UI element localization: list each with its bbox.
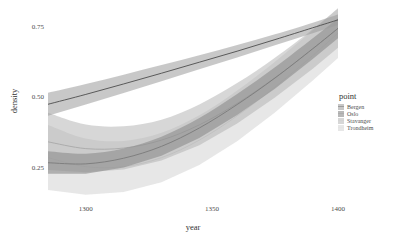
legend-swatch-icon xyxy=(338,104,344,110)
legend-item-oslo[interactable]: Oslo xyxy=(338,111,394,118)
x-tick-label: 1400 xyxy=(318,206,358,213)
x-axis-title: year xyxy=(48,222,338,232)
legend-item-label: Oslo xyxy=(347,111,358,117)
legend-swatch-icon xyxy=(338,111,344,117)
legend-item-label: Stavanger xyxy=(347,118,371,124)
x-tick-label: 1350 xyxy=(192,206,232,213)
legend-item-label: Bergen xyxy=(347,104,364,110)
y-axis-ticks: 0.75 0.50 0.25 xyxy=(0,0,44,250)
plot-panel xyxy=(48,8,338,200)
x-tick-label: 1300 xyxy=(66,206,106,213)
chart-figure: 0.75 0.50 0.25 1300 1350 1400 year densi… xyxy=(0,0,394,250)
plot-svg xyxy=(48,8,338,200)
legend-title: point xyxy=(339,92,394,101)
legend: point BergenOsloStavangerTrondheim xyxy=(338,92,394,132)
legend-items: BergenOsloStavangerTrondheim xyxy=(338,104,394,132)
legend-swatch-icon xyxy=(338,118,344,124)
legend-item-label: Trondheim xyxy=(347,125,373,131)
legend-item-trondheim[interactable]: Trondheim xyxy=(338,125,394,132)
legend-swatch-icon xyxy=(338,125,344,131)
y-tick-label: 0.75 xyxy=(4,24,44,31)
legend-item-bergen[interactable]: Bergen xyxy=(338,104,394,111)
legend-item-stavanger[interactable]: Stavanger xyxy=(338,118,394,125)
y-axis-title: density xyxy=(9,71,19,131)
y-tick-label: 0.25 xyxy=(4,165,44,172)
